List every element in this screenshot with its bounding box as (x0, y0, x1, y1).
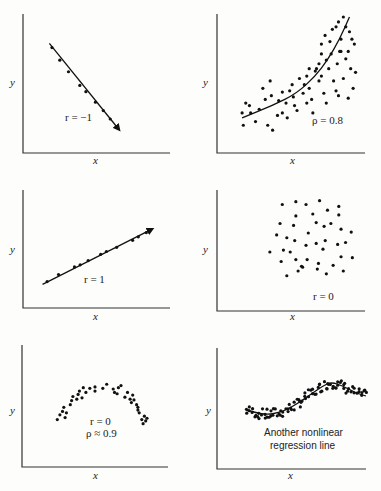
data-point (64, 416, 67, 419)
data-point (101, 387, 104, 390)
data-point (302, 92, 305, 95)
data-point (119, 384, 122, 387)
data-point (318, 382, 321, 385)
data-point (350, 38, 353, 41)
data-point (347, 97, 350, 100)
data-point (281, 111, 284, 114)
data-point (84, 90, 87, 93)
data-point (136, 408, 139, 411)
data-point (282, 249, 285, 252)
data-point (348, 30, 351, 33)
data-point (301, 266, 304, 269)
data-point (305, 74, 308, 77)
data-point (251, 411, 254, 414)
data-point (46, 280, 49, 283)
data-point (323, 380, 326, 383)
data-point (332, 79, 335, 82)
data-point (297, 269, 300, 272)
data-point (288, 403, 291, 406)
data-point (318, 199, 321, 202)
data-point (65, 411, 68, 414)
data-point (245, 412, 248, 415)
data-point (269, 409, 272, 412)
data-point (276, 114, 279, 117)
data-point (292, 224, 295, 227)
annotation-r-neg1: r = −1 (65, 111, 92, 123)
data-point (281, 415, 284, 418)
data-point (105, 250, 108, 253)
data-point (304, 244, 307, 247)
data-point (332, 264, 335, 267)
data-point (58, 59, 61, 62)
axes (217, 14, 365, 153)
y-axis-label: y (205, 404, 211, 416)
data-point (87, 259, 90, 262)
data-point (294, 200, 297, 203)
data-point (109, 117, 112, 120)
regression-curve (242, 17, 349, 118)
data-point (115, 246, 118, 249)
data-point (304, 397, 307, 400)
data-point (299, 405, 302, 408)
data-point (130, 401, 133, 404)
data-point (278, 222, 281, 225)
data-point (99, 253, 102, 256)
data-point (350, 230, 353, 233)
data-point (344, 57, 347, 60)
data-point (248, 405, 251, 408)
data-point (269, 79, 272, 82)
data-point (131, 239, 134, 242)
data-point (281, 90, 284, 93)
data-point (335, 386, 338, 389)
y-axis-label: y (9, 243, 15, 255)
data-point (288, 89, 291, 92)
data-point (313, 393, 316, 396)
data-point (131, 394, 134, 397)
data-point (317, 62, 320, 65)
scatter-panel-bottom-left (22, 345, 168, 467)
data-point (349, 67, 352, 70)
data-point (292, 95, 295, 98)
data-point (277, 99, 280, 102)
data-point (331, 28, 334, 31)
data-point (344, 25, 347, 28)
data-point (289, 250, 292, 253)
data-point (251, 407, 254, 410)
x-axis-label: x (92, 154, 98, 166)
data-point (258, 108, 261, 111)
annotation-rho-09: ρ ≈ 0.9 (86, 427, 117, 439)
data-point (352, 87, 355, 90)
data-point (265, 408, 268, 411)
data-point (320, 74, 323, 77)
data-point (293, 408, 296, 411)
data-point (352, 391, 355, 394)
data-point (290, 408, 293, 411)
data-point (303, 391, 306, 394)
y-axis-label: y (202, 76, 208, 88)
data-point (347, 50, 350, 53)
data-point (94, 101, 97, 104)
data-point (112, 387, 115, 390)
data-point (334, 25, 337, 28)
data-point (274, 407, 277, 410)
data-point (337, 213, 340, 216)
data-point (286, 116, 289, 119)
x-axis-label: x (287, 469, 293, 481)
data-point (314, 70, 317, 73)
data-point (126, 391, 129, 394)
x-axis-label: x (92, 310, 98, 322)
y-axis-label: y (202, 243, 208, 255)
data-point (247, 409, 250, 412)
data-point (342, 15, 345, 18)
data-point (298, 77, 301, 80)
data-point (80, 396, 83, 399)
data-point (308, 87, 311, 90)
data-point (88, 387, 91, 390)
data-point (323, 225, 326, 228)
data-point (285, 236, 288, 239)
data-point (327, 67, 330, 70)
data-point (263, 413, 266, 416)
data-point (260, 413, 263, 416)
data-point (353, 387, 356, 390)
data-point (305, 102, 308, 105)
